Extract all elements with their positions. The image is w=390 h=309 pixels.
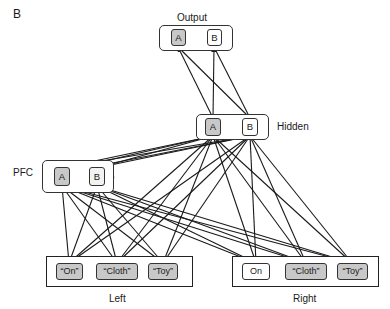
output-node-b: B [207,29,222,46]
output-node-a: A [171,29,186,46]
right-node-on: On [242,263,270,280]
output-layer-label: Output [177,12,207,24]
pfc-node-b: B [89,167,105,186]
panel-label: B [13,7,21,21]
hidden-node-b: B [242,118,258,136]
pfc-node-a: A [54,167,70,186]
left-group-label: Left [109,293,126,305]
left-node-toy: “Toy” [148,263,178,280]
right-node-cloth: “Cloth” [285,263,327,280]
hidden-node-a: A [205,118,221,136]
network-diagram: B Output A B Hidden A B PFC A B “On” “Cl… [0,0,390,309]
hidden-layer-label: Hidden [277,121,309,133]
right-node-toy: “Toy” [337,263,368,280]
left-node-on: “On” [56,263,83,280]
left-node-cloth: “Cloth” [96,263,138,280]
right-group-label: Right [293,293,316,305]
pfc-layer-label: PFC [13,167,33,179]
